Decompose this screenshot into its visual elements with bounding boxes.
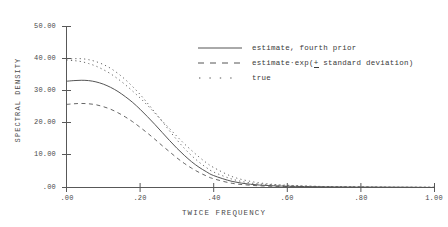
y-tick-label-20: 20.00 bbox=[16, 118, 56, 126]
x-tick-label-80: .80 bbox=[341, 194, 381, 202]
x-tick-label-0: .00 bbox=[47, 194, 87, 202]
spectral-density-chart: 50.00 40.00 30.00 20.00 10.00 .00 .00 .2… bbox=[0, 0, 448, 227]
x-tick-label-100: 1.00 bbox=[414, 194, 448, 202]
y-tick-label-10: 10.00 bbox=[16, 150, 56, 158]
legend-label-estimate: estimate, fourth prior bbox=[252, 44, 357, 52]
y-axis-title: SPECTRAL DENSITY bbox=[14, 40, 22, 160]
x-tick-label-40: .40 bbox=[194, 194, 234, 202]
curve-estimate-fourth-prior bbox=[67, 80, 435, 187]
legend-solid-line-icon bbox=[198, 43, 242, 53]
plot-area bbox=[0, 0, 448, 227]
legend-row-std-deviation: estimate·exp(+ standard deviation) bbox=[198, 55, 438, 70]
legend: estimate, fourth prior estimate·exp(+ st… bbox=[198, 40, 438, 85]
y-tick-label-50: 50.00 bbox=[16, 22, 56, 30]
legend-label-std-prefix: estimate·exp( bbox=[252, 59, 314, 67]
y-tick-label-0: .00 bbox=[16, 183, 56, 191]
y-tick-label-40: 40.00 bbox=[16, 54, 56, 62]
x-tick-label-20: .20 bbox=[120, 194, 160, 202]
y-tick-label-30: 30.00 bbox=[16, 86, 56, 94]
legend-label-std-suffix: standard deviation) bbox=[319, 59, 414, 67]
legend-label-std-deviation: estimate·exp(+ standard deviation) bbox=[252, 59, 414, 67]
legend-row-estimate: estimate, fourth prior bbox=[198, 40, 438, 55]
legend-dashed-line-icon bbox=[198, 58, 242, 68]
legend-dotted-line-icon bbox=[198, 73, 242, 83]
legend-label-true: true bbox=[252, 74, 271, 82]
x-tick-label-60: .60 bbox=[267, 194, 307, 202]
legend-row-true: true bbox=[198, 70, 438, 85]
x-axis-title: TWICE FREQUENCY bbox=[0, 209, 448, 217]
curve-estimate-exp-standard-deviation-lower bbox=[67, 103, 435, 187]
